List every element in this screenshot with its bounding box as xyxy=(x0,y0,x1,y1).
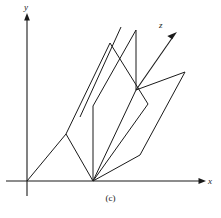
right-panel-lower-edge xyxy=(140,72,185,155)
figure-caption: (c) xyxy=(0,193,221,203)
right-panel-inner-crease xyxy=(93,90,136,181)
y-axis-label: y xyxy=(24,3,28,12)
figure-container: y x z (c) xyxy=(0,0,221,218)
wireframe-diagram-svg xyxy=(0,0,221,218)
z-axis-line xyxy=(136,38,173,91)
surface-wireframe xyxy=(27,27,185,181)
y-axis-arrowhead xyxy=(24,13,30,21)
left-panel-inner-crease xyxy=(80,27,121,117)
right-panel-upper-edge xyxy=(136,72,185,90)
z-axis xyxy=(136,32,177,90)
y-axis xyxy=(24,13,30,196)
z-axis-arrowhead xyxy=(167,32,177,39)
x-axis xyxy=(6,178,206,184)
origin-ray-to-left-fold xyxy=(27,134,66,181)
right-panel-base-edge xyxy=(93,155,140,181)
x-axis-label: x xyxy=(208,177,212,186)
x-axis-arrowhead xyxy=(199,178,207,184)
z-axis-label: z xyxy=(159,21,163,30)
